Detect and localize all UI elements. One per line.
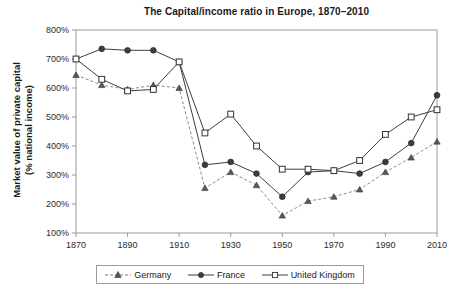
- data-point: [279, 194, 285, 200]
- svg-text:1930: 1930: [221, 240, 241, 250]
- data-point: [228, 169, 234, 175]
- data-point: [279, 166, 285, 172]
- data-point: [99, 82, 105, 88]
- legend-swatch-france: [188, 270, 214, 280]
- svg-text:1870: 1870: [66, 240, 86, 250]
- legend-item-united-kingdom: United Kingdom: [262, 270, 355, 280]
- svg-text:1910: 1910: [169, 240, 189, 250]
- data-point: [434, 139, 440, 145]
- legend-label-united-kingdom: United Kingdom: [291, 270, 355, 280]
- legend-swatch-germany: [105, 270, 131, 280]
- data-point: [408, 114, 414, 120]
- legend-item-germany: Germany: [105, 270, 171, 280]
- data-point: [434, 107, 440, 113]
- series-line: [76, 59, 437, 171]
- chart-legend: Germany France United Kingdom: [96, 265, 364, 284]
- svg-text:1970: 1970: [324, 240, 344, 250]
- y-axis-ticks: 100%200%300%400%500%600%700%800%: [46, 25, 76, 238]
- svg-text:100%: 100%: [46, 228, 69, 238]
- data-point: [356, 186, 362, 192]
- data-point: [99, 76, 105, 82]
- data-point: [228, 111, 234, 117]
- data-point: [383, 132, 389, 138]
- legend-swatch-united-kingdom: [262, 270, 288, 280]
- legend-label-france: France: [217, 270, 245, 280]
- svg-text:300%: 300%: [46, 170, 69, 180]
- data-point: [150, 87, 156, 93]
- data-point: [176, 85, 182, 91]
- capital-income-ratio-chart: The Capital/income ratio in Europe, 1870…: [0, 0, 461, 293]
- data-point: [202, 130, 208, 136]
- svg-text:2010: 2010: [427, 240, 447, 250]
- svg-text:200%: 200%: [46, 199, 69, 209]
- data-point: [331, 168, 337, 174]
- data-series-layer: [73, 46, 440, 218]
- svg-text:400%: 400%: [46, 141, 69, 151]
- plot-area: 100%200%300%400%500%600%700%800% 1870189…: [0, 0, 461, 293]
- data-point: [73, 56, 79, 62]
- data-point: [73, 72, 79, 78]
- data-point: [253, 182, 259, 188]
- svg-text:600%: 600%: [46, 83, 69, 93]
- svg-text:1950: 1950: [272, 240, 292, 250]
- data-point: [202, 162, 208, 168]
- svg-text:700%: 700%: [46, 54, 69, 64]
- data-point: [408, 140, 414, 146]
- data-point: [408, 155, 414, 161]
- data-point: [254, 171, 260, 177]
- series-france: [73, 46, 440, 200]
- svg-text:1890: 1890: [118, 240, 138, 250]
- legend-label-germany: Germany: [134, 270, 171, 280]
- data-point: [99, 46, 105, 52]
- data-point: [382, 169, 388, 175]
- data-point: [125, 47, 131, 53]
- legend-item-france: France: [188, 270, 245, 280]
- data-point: [383, 159, 389, 165]
- data-point: [228, 159, 234, 165]
- data-point: [176, 59, 182, 65]
- data-point: [202, 185, 208, 191]
- data-point: [125, 88, 131, 94]
- data-point: [150, 47, 156, 53]
- data-point: [254, 143, 260, 149]
- data-point: [357, 171, 363, 177]
- data-point: [434, 92, 440, 98]
- data-point: [305, 166, 311, 172]
- x-axis-ticks: 18701890191019301950197019902010: [66, 233, 447, 250]
- data-point: [357, 158, 363, 164]
- svg-text:500%: 500%: [46, 112, 69, 122]
- series-united-kingdom: [73, 56, 440, 173]
- svg-text:800%: 800%: [46, 25, 69, 35]
- svg-text:1990: 1990: [375, 240, 395, 250]
- data-point: [279, 213, 285, 219]
